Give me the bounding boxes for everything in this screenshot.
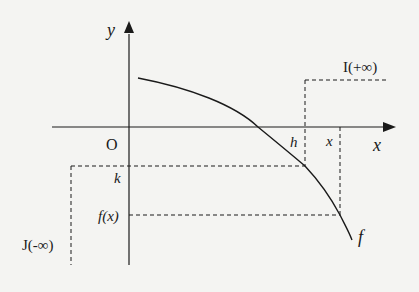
y-axis xyxy=(124,21,134,265)
y-axis-label: y xyxy=(105,20,115,40)
x-axis-arrow-icon xyxy=(383,122,396,132)
region-j-label: J(-∞) xyxy=(22,237,54,254)
x-point-label: x xyxy=(325,133,333,149)
region-i-label: I(+∞) xyxy=(343,59,377,76)
x-axis xyxy=(52,122,396,132)
h-label: h xyxy=(290,134,298,150)
origin-label: O xyxy=(106,136,118,153)
curve-label: f xyxy=(358,227,366,247)
x-axis-label: x xyxy=(372,135,381,155)
function-curve xyxy=(138,78,352,240)
y-axis-arrow-icon xyxy=(124,21,134,33)
fx-label: f(x) xyxy=(98,208,119,225)
k-label: k xyxy=(114,170,121,186)
function-diagram: y x O h x k f(x) f I(+∞) J(-∞) xyxy=(0,0,419,292)
